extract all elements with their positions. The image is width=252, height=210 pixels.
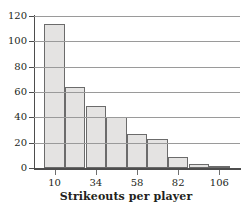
bar bbox=[44, 24, 65, 168]
gridline bbox=[34, 92, 240, 93]
gridline bbox=[34, 117, 240, 118]
x-tick-mark bbox=[96, 170, 97, 175]
bar bbox=[86, 106, 107, 168]
gridline bbox=[34, 143, 240, 144]
bar bbox=[65, 87, 86, 168]
x-tick-label: 82 bbox=[163, 177, 193, 188]
y-tick-label: 60 bbox=[0, 87, 27, 97]
y-tick-label: 20 bbox=[0, 138, 27, 148]
bar bbox=[168, 157, 189, 168]
y-tick-label: 120 bbox=[0, 11, 27, 21]
bar bbox=[127, 134, 148, 168]
histogram-figure: 020406080100120 10345882106 Strikeouts p… bbox=[0, 0, 252, 210]
y-tick-label: 40 bbox=[0, 112, 27, 122]
x-tick-label: 10 bbox=[40, 177, 70, 188]
x-tick-mark bbox=[55, 170, 56, 175]
y-tick-label: 0 bbox=[0, 163, 27, 173]
plot-area bbox=[34, 16, 240, 168]
y-tick-label: 100 bbox=[0, 36, 27, 46]
gridline bbox=[34, 67, 240, 68]
y-tick-label: 80 bbox=[0, 62, 27, 72]
x-tick-label: 106 bbox=[204, 177, 234, 188]
x-tick-mark bbox=[137, 170, 138, 175]
x-tick-label: 58 bbox=[122, 177, 152, 188]
x-tick-mark bbox=[178, 170, 179, 175]
x-tick-mark bbox=[219, 170, 220, 175]
gridline bbox=[34, 41, 240, 42]
gridline bbox=[34, 16, 240, 17]
x-tick-label: 34 bbox=[81, 177, 111, 188]
x-axis-title: Strikeouts per player bbox=[0, 190, 252, 203]
